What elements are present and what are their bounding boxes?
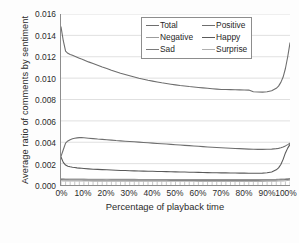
y-tick-label: 0.006 xyxy=(24,117,56,127)
x-tick-label: 30% xyxy=(121,188,138,198)
x-tick-label: 60% xyxy=(190,188,207,198)
legend-label: Happy xyxy=(216,32,240,43)
x-tick-label: 0% xyxy=(55,188,67,198)
legend-label: Surprise xyxy=(216,44,247,55)
legend-entry: Sad xyxy=(146,44,193,55)
y-tick-label: 0.014 xyxy=(24,31,56,41)
legend-label: Positive xyxy=(216,20,245,31)
x-tick-label: 10% xyxy=(75,188,92,198)
y-tick-label: 0.002 xyxy=(24,160,56,170)
x-tick-label: 40% xyxy=(144,188,161,198)
y-tick-label: 0.016 xyxy=(24,9,56,19)
y-axis-tick-labels: 0.0000.0020.0040.0060.0080.0100.0120.014… xyxy=(24,14,56,186)
legend-label: Negative xyxy=(160,32,193,43)
legend-line-swatch xyxy=(202,49,215,50)
legend-line-swatch xyxy=(146,25,159,26)
series-line xyxy=(61,178,290,179)
legend-label: Sad xyxy=(160,44,175,55)
legend-entry: Happy xyxy=(202,32,247,43)
legend-line-swatch xyxy=(146,49,159,50)
x-tick-label: 100% xyxy=(275,188,296,198)
x-axis-tick-labels: 0%10%20%30%40%50%60%70%80%90%100% xyxy=(60,188,290,200)
legend-entry: Total xyxy=(146,20,193,31)
y-tick-label: 0.000 xyxy=(24,181,56,191)
y-tick-label: 0.008 xyxy=(24,95,56,105)
x-tick-label: 20% xyxy=(98,188,115,198)
legend-entry: Negative xyxy=(146,32,193,43)
legend-line-swatch xyxy=(202,25,215,26)
x-tick-label: 50% xyxy=(167,188,184,198)
series-line xyxy=(61,138,290,157)
y-tick-label: 0.012 xyxy=(24,52,56,62)
y-tick-label: 0.010 xyxy=(24,74,56,84)
legend-entry: Surprise xyxy=(202,44,247,55)
y-tick-label: 0.004 xyxy=(24,138,56,148)
legend-line-swatch xyxy=(146,37,159,38)
x-tick-label: 80% xyxy=(236,188,253,198)
chart-legend: TotalPositiveNegativeHappySadSurprise xyxy=(141,17,252,59)
legend-line-swatch xyxy=(202,37,215,38)
x-tick-label: 90% xyxy=(259,188,276,198)
chart-figure: Average ratio of comments by sentiment 0… xyxy=(0,0,299,243)
series-line xyxy=(61,144,290,173)
legend-entry: Positive xyxy=(202,20,247,31)
x-tick-label: 70% xyxy=(213,188,230,198)
x-axis-title: Percentage of playback time xyxy=(40,201,290,212)
legend-label: Total xyxy=(160,20,178,31)
